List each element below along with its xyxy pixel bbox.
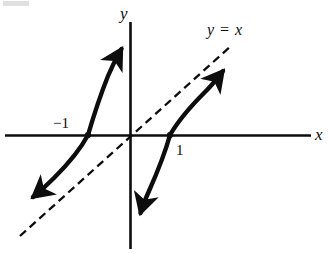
curve-lower-left-branch [33, 135, 88, 197]
identity-line-y-equals-x [20, 46, 231, 236]
y-axis-label: y [120, 5, 128, 22]
curve-upper-right-branch [170, 71, 223, 135]
identity-line-label: y = x [207, 22, 243, 38]
function-inverse-graph [0, 0, 329, 254]
x-intercept-marker-right [167, 132, 173, 138]
x-axis-label: x [315, 126, 323, 143]
curve-upper-left-branch [88, 49, 122, 135]
x-intercept-label-positive-one: 1 [176, 143, 184, 158]
x-intercept-marker-left [85, 132, 91, 138]
x-intercept-label-negative-one: −1 [53, 116, 69, 131]
curve-lower-right-branch [141, 135, 171, 213]
